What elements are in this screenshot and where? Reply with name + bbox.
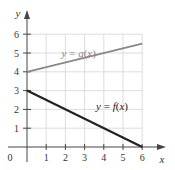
x-tick-label: 3	[82, 152, 87, 163]
x-tick-label: 2	[63, 152, 68, 163]
function-graph: 1234561234560xyy = f(x)y = g(x)	[0, 0, 175, 170]
x-axis-arrow-icon	[157, 144, 166, 150]
x-axis-label: x	[159, 153, 165, 165]
x-tick-label: 4	[101, 152, 106, 163]
y-axis-arrow-icon	[24, 10, 30, 19]
labels: 1234561234560xyy = f(x)y = g(x)	[8, 7, 165, 165]
y-tick-label: 5	[14, 48, 19, 59]
y-tick-label: 4	[14, 66, 19, 77]
y-tick-label: 6	[14, 29, 19, 40]
series-label: y = g(x)	[61, 47, 97, 60]
y-tick-label: 1	[14, 123, 19, 134]
y-tick-label: 3	[14, 85, 19, 96]
series-label: y = f(x)	[95, 100, 128, 113]
y-axis-label: y	[15, 7, 21, 19]
x-tick-label: 6	[140, 152, 145, 163]
x-tick-label: 5	[121, 152, 126, 163]
x-tick-label: 1	[44, 152, 49, 163]
y-tick-label: 2	[14, 104, 19, 115]
origin-label: 0	[8, 152, 13, 163]
